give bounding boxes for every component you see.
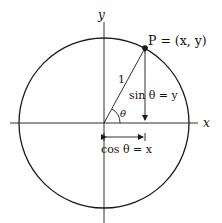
- point-p-label: P = (x, y): [148, 33, 207, 48]
- point-p: [142, 45, 148, 51]
- angle-label: θ: [120, 108, 126, 119]
- radius-label: 1: [118, 73, 125, 86]
- x-axis-label: x: [203, 116, 210, 130]
- y-axis-label: y: [97, 8, 105, 22]
- angle-arc: [112, 109, 120, 123]
- sin-label: sin θ = y: [129, 89, 179, 102]
- cos-label: cos θ = x: [101, 143, 153, 156]
- unit-circle-diagram: y x P = (x, y) 1 θ sin θ = y cos θ = x: [0, 0, 222, 223]
